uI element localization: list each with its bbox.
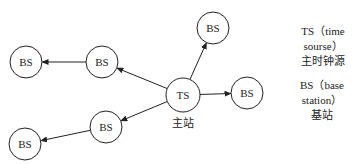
node-label: BS xyxy=(240,87,253,99)
node-ts: TS xyxy=(166,78,200,112)
node-bs_lower_mid: BS xyxy=(90,111,122,143)
node-bs_lower_left: BS xyxy=(9,128,41,160)
edge-arrow-ts-to-bs_right xyxy=(200,94,231,95)
nodes: TSBSBSBSBSBSBS xyxy=(9,12,263,160)
legend-ts-abbr: TS xyxy=(301,25,314,37)
edge-arrow-bs_lower_mid-to-bs_lower_left xyxy=(41,130,90,140)
legend-ts-chinese: 主时钟源 xyxy=(288,54,358,69)
legend-bs-chinese: 基站 xyxy=(286,108,358,123)
edge-arrow-ts-to-bs_top xyxy=(190,43,206,79)
node-bs_top: BS xyxy=(197,12,229,44)
node-bs_upper_left: BS xyxy=(10,46,42,78)
node-label: BS xyxy=(95,56,108,68)
ts-caption: 主站 xyxy=(172,114,194,130)
node-bs_right: BS xyxy=(231,77,263,109)
legend-ts: TS（time sourse） 主时钟源 xyxy=(288,24,358,69)
node-label: BS xyxy=(99,121,112,133)
legend-bs: BS（base station） 基站 xyxy=(286,78,358,123)
edge-arrow-ts-to-bs_upper_mid xyxy=(117,68,167,88)
edge-arrow-ts-to-bs_lower_mid xyxy=(121,102,167,121)
node-label: BS xyxy=(18,138,31,150)
node-label: TS xyxy=(177,89,190,101)
node-bs_upper_mid: BS xyxy=(86,46,118,78)
legend-bs-abbr: BS xyxy=(300,79,313,91)
node-label: BS xyxy=(206,22,219,34)
node-label: BS xyxy=(19,56,32,68)
edges xyxy=(41,43,230,141)
